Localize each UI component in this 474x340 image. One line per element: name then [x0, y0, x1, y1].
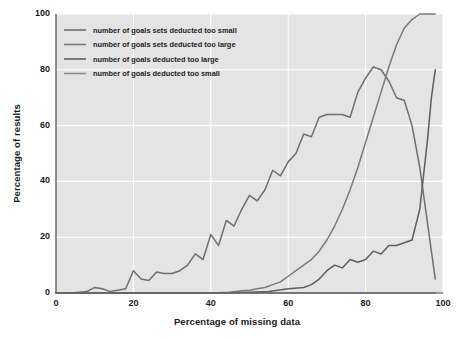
chart-figure: number of goals sets deducted too smalln… [0, 0, 474, 340]
y-tick-40: 40 [20, 175, 50, 185]
x-tick-40: 40 [199, 298, 223, 308]
y-axis-label: Percentage of results [11, 84, 22, 224]
y-tick-60: 60 [20, 120, 50, 130]
x-tick-20: 20 [121, 298, 145, 308]
y-tick-20: 20 [20, 231, 50, 241]
y-tick-0: 0 [20, 287, 50, 297]
x-tick-60: 60 [276, 298, 300, 308]
y-tick-80: 80 [20, 64, 50, 74]
y-tick-100: 100 [20, 8, 50, 18]
legend-label-2: number of goals deducted too large [93, 55, 219, 64]
x-tick-0: 0 [44, 298, 68, 308]
x-axis-label: Percentage of missing data [0, 316, 474, 327]
legend-label-1: number of goals sets deducted too large [93, 40, 236, 49]
legend-label-0: number of goals sets deducted too small [93, 26, 237, 35]
legend-label-3: number of goals deducted too small [93, 69, 220, 78]
line-chart-plot: number of goals sets deducted too smalln… [0, 0, 474, 340]
x-tick-100: 100 [431, 298, 455, 308]
x-tick-80: 80 [354, 298, 378, 308]
